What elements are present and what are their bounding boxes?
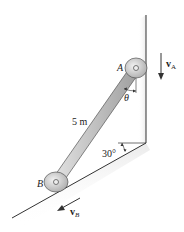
point-a-label: A [116, 62, 124, 73]
angle-30-label: 30° [102, 148, 116, 159]
theta-label: θ [124, 92, 129, 103]
collar-b [44, 172, 68, 192]
velocity-b-label: vB [70, 206, 80, 219]
wall-shading [138, 15, 146, 146]
angle-30-indicator [121, 143, 127, 152]
point-b-label: B [37, 178, 43, 189]
velocity-a-arrow [158, 53, 164, 80]
diagram-canvas: 30° θ A B 5 m vA vB [0, 0, 184, 232]
velocity-a-label: vA [166, 58, 176, 71]
collar-a [125, 58, 147, 78]
length-label: 5 m [72, 116, 88, 127]
rod-ab [51, 66, 141, 185]
